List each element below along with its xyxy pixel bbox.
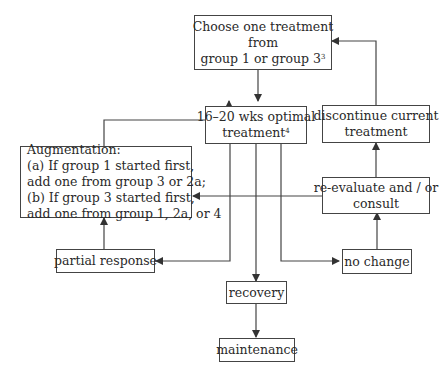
node-text: consult (353, 196, 399, 212)
node-recovery: recovery (226, 281, 287, 304)
node-text: maintenance (216, 342, 298, 358)
node-text: treatment (344, 124, 407, 140)
node-text: group 1 or group 33 (201, 51, 326, 67)
node-text: treatment4 (222, 125, 290, 141)
node-reevaluate: re-evaluate and / or consult (322, 177, 430, 214)
node-text: Choose one treatment (193, 19, 334, 35)
node-choose-treatment: Choose one treatment from group 1 or gro… (194, 15, 332, 70)
node-text: from (248, 35, 278, 51)
node-text: partial response (54, 253, 157, 269)
node-text: (b) If group 3 started first, (27, 190, 195, 206)
node-text: no change (344, 254, 410, 270)
node-text: recovery (229, 285, 284, 301)
footnote-marker: 4 (285, 127, 289, 135)
node-text: (a) If group 1 started first, (27, 158, 194, 174)
node-text: add one from group 3 or 2a; (27, 174, 206, 190)
node-text: add one from group 1, 2a, or 4 (27, 206, 222, 222)
node-text: Augmentation: (27, 142, 121, 158)
node-maintenance: maintenance (219, 338, 295, 362)
node-augmentation: Augmentation: (a) If group 1 started fir… (20, 146, 192, 218)
node-text: 16–20 wks optimal (197, 109, 316, 125)
node-text: discontinue current (314, 108, 439, 124)
node-discontinue: discontinue current treatment (322, 105, 430, 143)
node-text: re-evaluate and / or (314, 180, 439, 196)
footnote-marker: 3 (321, 53, 325, 61)
node-partial-response: partial response (56, 249, 155, 273)
node-optimal-treatment: 16–20 wks optimal treatment4 (205, 106, 307, 144)
node-no-change: no change (342, 249, 412, 274)
